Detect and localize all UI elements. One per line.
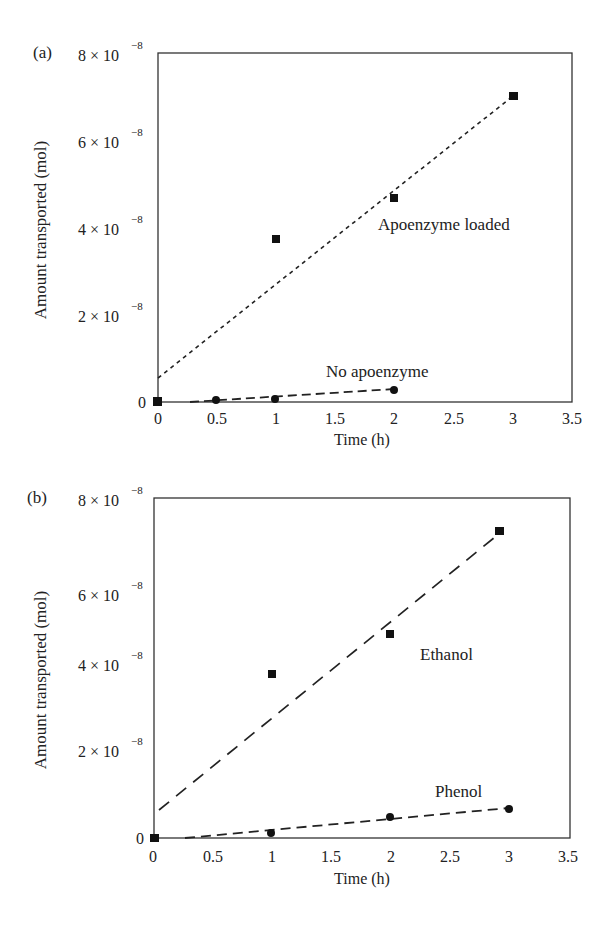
svg-text:−8: −8 (131, 213, 143, 225)
series-apoenzyme-loaded (153, 92, 518, 406)
svg-text:4 × 10: 4 × 10 (78, 221, 119, 238)
svg-text:−8: −8 (131, 126, 143, 138)
svg-text:2 × 10: 2 × 10 (78, 743, 119, 760)
y-axis-ticks-b: 8 × 10 −8 6 × 10 −8 4 × 10 −8 2 × 10 −8 … (78, 484, 144, 847)
svg-text:3.5: 3.5 (562, 410, 582, 427)
x-axis-label-a: Time (h) (334, 431, 390, 449)
annotation-no-apoenzyme: No apoenzyme (326, 362, 428, 381)
svg-text:4 × 10: 4 × 10 (78, 657, 119, 674)
svg-text:3.5: 3.5 (558, 848, 578, 865)
svg-text:−8: −8 (131, 300, 143, 312)
svg-text:−8: −8 (131, 39, 143, 51)
svg-text:0.5: 0.5 (207, 410, 227, 427)
fit-line-phenol (185, 808, 509, 838)
chart-b: (b) 8 × 10 −8 6 × 10 −8 4 × 10 −8 2 × 10… (0, 460, 610, 941)
panel-label-b: (b) (27, 488, 47, 507)
svg-text:1.5: 1.5 (325, 410, 345, 427)
annotation-ethanol: Ethanol (420, 645, 473, 664)
panel-b: (b) 8 × 10 −8 6 × 10 −8 4 × 10 −8 2 × 10… (0, 460, 610, 941)
svg-text:6 × 10: 6 × 10 (78, 587, 119, 604)
svg-text:1: 1 (272, 410, 280, 427)
panel-a: (a) 8 × 10 −8 6 × 10 −8 4 × 10 −8 2 × 10… (0, 0, 610, 460)
svg-text:2: 2 (390, 410, 398, 427)
chart-a: (a) 8 × 10 −8 6 × 10 −8 4 × 10 −8 2 × 10… (0, 0, 610, 460)
svg-text:−8: −8 (131, 579, 143, 591)
svg-text:0: 0 (154, 410, 162, 427)
svg-text:6 × 10: 6 × 10 (78, 134, 119, 151)
svg-text:3: 3 (505, 848, 513, 865)
y-axis-label-a: Amount transported (mol) (31, 141, 50, 319)
svg-text:−8: −8 (131, 484, 143, 496)
svg-text:2.5: 2.5 (440, 848, 460, 865)
fit-line-no-apoenzyme (190, 389, 394, 402)
svg-text:8 × 10: 8 × 10 (78, 492, 119, 509)
x-axis-label-b: Time (h) (334, 870, 390, 888)
series-phenol (267, 805, 513, 837)
svg-text:−8: −8 (131, 735, 143, 747)
fit-line-ethanol (159, 533, 500, 810)
svg-text:3: 3 (509, 410, 517, 427)
x-axis-ticks-b: 0 0.5 1 1.5 2 2.5 3 3.5 (149, 848, 578, 865)
svg-text:0: 0 (136, 830, 144, 847)
svg-text:1: 1 (268, 848, 276, 865)
panel-label-a: (a) (33, 43, 52, 62)
svg-text:0.5: 0.5 (203, 848, 223, 865)
plot-frame-a (158, 53, 572, 402)
svg-text:−8: −8 (131, 649, 143, 661)
annotation-phenol: Phenol (435, 782, 483, 801)
svg-text:0: 0 (138, 394, 146, 411)
svg-text:8 × 10: 8 × 10 (78, 47, 119, 64)
annotation-apoenzyme-loaded: Apoenzyme loaded (378, 215, 510, 234)
svg-text:2 × 10: 2 × 10 (78, 308, 119, 325)
svg-text:2: 2 (387, 848, 395, 865)
x-axis-ticks-a: 0 0.5 1 1.5 2 2.5 3 3.5 (154, 410, 582, 427)
y-axis-ticks-a: 8 × 10 −8 6 × 10 −8 4 × 10 −8 2 × 10 −8 … (78, 39, 146, 411)
plot-frame-b (154, 498, 570, 838)
svg-text:0: 0 (149, 848, 157, 865)
fit-line-apoenzyme-loaded (158, 96, 513, 378)
svg-text:2.5: 2.5 (444, 410, 464, 427)
y-axis-label-b: Amount transported (mol) (31, 591, 50, 769)
svg-text:1.5: 1.5 (321, 848, 341, 865)
